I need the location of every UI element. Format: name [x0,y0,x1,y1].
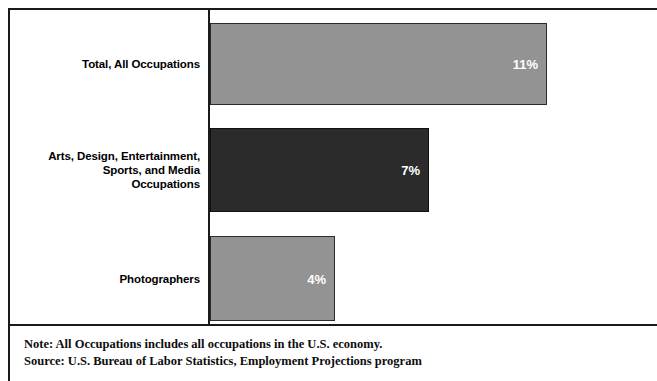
plot-area: Total, All Occupations 11% Arts, Design,… [10,10,657,325]
category-label-line: Occupations [14,177,200,191]
bar-arts-design-entertainment[interactable]: 7% [210,128,429,212]
bar-photographers[interactable]: 4% [210,236,335,321]
category-label-arts-design-entertainment: Arts, Design, Entertainment, Sports, and… [14,149,200,191]
category-label-line: Sports, and Media [14,163,200,177]
bar-value-label: 4% [307,271,326,286]
category-label-line: Total, All Occupations [14,57,200,71]
note-text: Note: All Occupations includes all occup… [24,336,422,353]
category-label-photographers: Photographers [14,272,200,286]
bar-value-label: 11% [513,57,538,72]
plot-bottom-rule [8,324,657,326]
source-text: Source: U.S. Bureau of Labor Statistics,… [24,353,422,370]
category-label-line: Arts, Design, Entertainment, [14,149,200,163]
footnotes: Note: All Occupations includes all occup… [24,336,422,370]
category-label-total-all-occupations: Total, All Occupations [14,57,200,71]
bar-total-all-occupations[interactable]: 11% [210,23,547,105]
category-label-line: Photographers [14,272,200,286]
bar-value-label: 7% [401,163,420,178]
chart-screenshot: Total, All Occupations 11% Arts, Design,… [0,0,657,381]
